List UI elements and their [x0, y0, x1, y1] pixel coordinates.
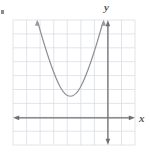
y-axis-label: y	[104, 2, 109, 13]
x-axis-label: x	[139, 113, 145, 124]
parabola-curve	[35, 20, 106, 97]
grid-lines	[13, 20, 135, 145]
parabola-figure: y x	[0, 0, 150, 156]
y-axis	[106, 20, 111, 145]
x-axis	[13, 115, 135, 120]
coordinate-plane	[0, 0, 150, 156]
